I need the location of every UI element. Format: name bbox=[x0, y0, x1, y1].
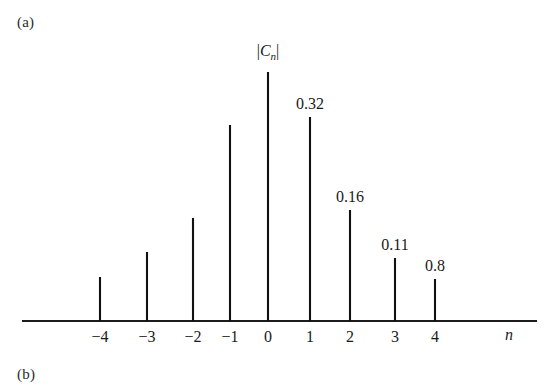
x-tick-label: 4 bbox=[431, 328, 439, 346]
data-point-value-label: 0.11 bbox=[381, 236, 408, 254]
x-tick-label: −2 bbox=[184, 328, 201, 346]
ticks-group bbox=[100, 310, 435, 321]
y-axis-symbol: C bbox=[260, 42, 271, 59]
x-axis-title: n bbox=[505, 326, 513, 344]
x-tick-label: −1 bbox=[221, 328, 238, 346]
x-tick-label: −4 bbox=[91, 328, 108, 346]
x-tick-label: 2 bbox=[346, 328, 354, 346]
x-tick-label: −3 bbox=[138, 328, 155, 346]
data-point-value-label: 0.16 bbox=[336, 188, 364, 206]
y-axis-title: |Cn| bbox=[257, 42, 280, 62]
data-point-value-label: 0.8 bbox=[425, 257, 445, 275]
x-tick-label: 0 bbox=[264, 328, 272, 346]
figure-root: (a) |Cn| n −4−3−2−101234 0.320.160.110.8… bbox=[0, 0, 553, 391]
y-axis-bar-close: | bbox=[276, 42, 279, 59]
panel-label-b: (b) bbox=[17, 366, 35, 383]
data-point-value-label: 0.32 bbox=[296, 95, 324, 113]
stems-group bbox=[100, 72, 435, 321]
x-tick-label: 3 bbox=[391, 328, 399, 346]
line-spectrum-plot: |Cn| n −4−3−2−101234 0.320.160.110.8 bbox=[0, 0, 553, 391]
x-tick-label: 1 bbox=[306, 328, 314, 346]
